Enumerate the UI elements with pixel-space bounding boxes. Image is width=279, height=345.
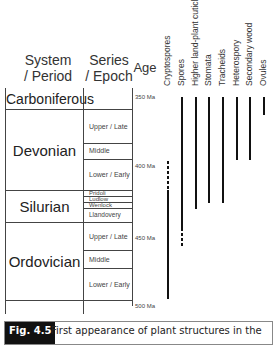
bar-stomata <box>208 97 210 203</box>
caption-text: First appearance of plant structures in … <box>51 325 262 336</box>
bar-cryptospores <box>167 190 169 299</box>
boundary-devonian-middle-lower <box>83 159 133 160</box>
series-devonian-middle: Middle <box>89 147 110 154</box>
column-label-tracheids: Tracheids <box>217 49 227 86</box>
system-period-header: System / Period <box>14 52 82 84</box>
age-tick-450: 450 Ma <box>135 235 155 241</box>
bar-tracheids <box>222 97 224 203</box>
bar-spores-uncertain <box>181 228 183 248</box>
boundary-silurian-ordovician <box>5 222 133 223</box>
bar-spores <box>181 97 183 228</box>
system-carboniferous: Carboniferous <box>6 91 83 107</box>
boundary-devonian-upper-middle <box>83 143 133 144</box>
series-ordovician-upper: Upper / Late <box>89 233 128 240</box>
column-label-ovules: Ovules <box>258 60 268 86</box>
boundary-devonian-silurian <box>5 190 133 191</box>
boundary-ordovician-middle-lower <box>83 268 133 269</box>
series-silurian-wenlock: Wenlock <box>89 202 112 208</box>
age-tick-400: 400 Ma <box>135 163 155 169</box>
column-label-spores: Spores <box>176 59 186 86</box>
table-system-series-divider <box>83 88 84 314</box>
system-ordovician: Ordovician <box>6 253 83 270</box>
column-label-cryptospores: Cryptospores <box>162 35 172 86</box>
age-header: Age <box>133 60 157 76</box>
series-ordovician-middle: Middle <box>89 256 110 263</box>
system-header-line1: System <box>14 52 82 68</box>
series-devonian-upper: Upper / Late <box>89 123 128 130</box>
bar-heterospory <box>236 97 238 160</box>
figure-number-badge: Fig. 4.5 <box>5 322 55 344</box>
bar-cryptospores-uncertain <box>167 161 169 190</box>
boundary-wenlock-llandovery <box>83 208 133 209</box>
series-devonian-lower: Lower / Early <box>89 171 130 178</box>
series-ordovician-lower: Lower / Early <box>89 281 130 288</box>
column-label-stomata: Stomata <box>203 54 213 86</box>
series-silurian-llandovery: Llandovery <box>89 211 121 218</box>
series-epoch-header: Series / Epoch <box>84 52 134 84</box>
system-silurian: Silurian <box>6 198 83 215</box>
bar-ovules <box>263 97 265 115</box>
system-header-line2: / Period <box>14 68 82 84</box>
column-label-heterospory: Heterospory <box>231 40 241 86</box>
boundary-ordovician-base <box>5 300 133 301</box>
age-tick-350: 350 Ma <box>135 94 155 100</box>
bar-secondary-wood <box>249 97 251 160</box>
boundary-carboniferous-devonian <box>5 109 133 110</box>
series-header-line1: Series <box>84 52 134 68</box>
boundary-ordovician-upper-middle <box>83 250 133 251</box>
age-tick-500: 500 Ma <box>135 303 155 309</box>
figure-caption: Fig. 4.5 First appearance of plant struc… <box>4 321 273 345</box>
column-label-secondary-wood: Secondary wood <box>244 23 254 86</box>
series-header-line2: / Epoch <box>84 68 134 84</box>
system-devonian: Devonian <box>6 142 83 159</box>
column-label-higher-land-plant-cuticle: Higher land-plant cuticle <box>190 0 200 86</box>
table-age-axis <box>132 88 133 306</box>
bar-higher-land-plant-cuticle <box>195 97 197 209</box>
